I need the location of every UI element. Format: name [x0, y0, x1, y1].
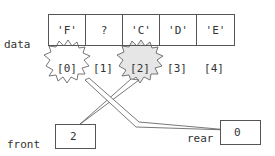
- rear-label: rear: [187, 132, 214, 145]
- data-array: 'F' ? 'C' 'D' 'E': [48, 14, 235, 46]
- rear-value: 0: [234, 126, 241, 139]
- front-value: 2: [70, 130, 77, 143]
- array-cell-3: 'D': [160, 15, 197, 45]
- array-cell-2: 'C': [123, 15, 160, 45]
- array-cell-4: 'E': [197, 15, 234, 45]
- front-label: front: [7, 138, 40, 151]
- array-cell-0: 'F': [49, 15, 86, 45]
- index-label-4: [4]: [199, 62, 229, 75]
- front-box: 2: [55, 124, 96, 149]
- array-cell-1: ?: [86, 15, 123, 45]
- index-label-3: [3]: [162, 62, 192, 75]
- index-label-2: [2]: [125, 62, 155, 75]
- rear-box: 0: [220, 120, 261, 145]
- index-label-0: [0]: [52, 62, 82, 75]
- array-name-label: data: [4, 38, 31, 51]
- index-label-1: [1]: [88, 62, 118, 75]
